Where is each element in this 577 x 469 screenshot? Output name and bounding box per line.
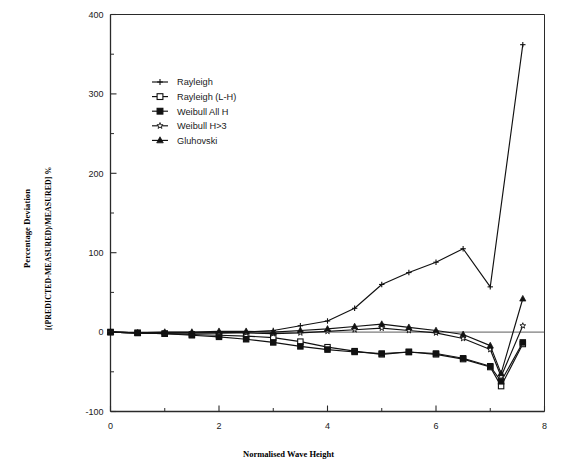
data-point-filled-square-icon bbox=[379, 351, 384, 356]
axis-tick-labels: 4003002001000-10002468 bbox=[85, 10, 547, 431]
y-axis-title-primary: Percentage Deviation bbox=[22, 189, 32, 268]
x-tick-label: 0 bbox=[108, 421, 113, 431]
y-tick-label: -100 bbox=[85, 407, 103, 417]
legend-item-weibull-h-3: Weibull H>3 bbox=[152, 121, 227, 131]
data-point-open-star-icon bbox=[520, 323, 526, 328]
legend-marker-filled-triangle-icon bbox=[157, 137, 164, 143]
data-point-filled-square-icon bbox=[352, 349, 357, 354]
y-tick-label: 400 bbox=[88, 10, 103, 20]
legend-label: Weibull All H bbox=[177, 107, 228, 117]
y-tick-label: 200 bbox=[88, 169, 103, 179]
data-point-filled-square-icon bbox=[433, 351, 438, 356]
data-point-filled-triangle-icon bbox=[520, 295, 526, 301]
data-point-filled-square-icon bbox=[406, 349, 411, 354]
x-tick-label: 6 bbox=[433, 421, 438, 431]
legend-item-rayleigh: Rayleigh bbox=[152, 77, 213, 87]
x-axis-title: Normalised Wave Height bbox=[0, 449, 577, 459]
legend-item-gluhovski: Gluhovski bbox=[152, 136, 217, 146]
y-tick-label: 300 bbox=[88, 89, 103, 99]
legend-item-weibull-all-h: Weibull All H bbox=[152, 107, 228, 117]
legend: RayleighRayleigh (L-H)Weibull All HWeibu… bbox=[152, 77, 236, 145]
series-line bbox=[111, 45, 523, 333]
data-point-filled-square-icon bbox=[488, 364, 493, 369]
data-series-group bbox=[107, 42, 526, 389]
x-tick-label: 2 bbox=[216, 421, 221, 431]
series-gluhovski bbox=[107, 295, 526, 375]
data-point-filled-square-icon bbox=[298, 344, 303, 349]
x-tick-label: 8 bbox=[542, 421, 547, 431]
legend-marker-open-star-icon bbox=[157, 123, 163, 129]
plot-area: 4003002001000-10002468 RayleighRayleigh … bbox=[0, 0, 577, 469]
y-axis-title-secondary: [(PREDICTED-MEASURED)/MEASURED] % bbox=[44, 167, 53, 330]
legend-label: Gluhovski bbox=[177, 136, 217, 146]
data-point-filled-square-icon bbox=[520, 340, 525, 345]
series-line bbox=[111, 326, 523, 377]
chart-figure: Percentage Deviation [(PREDICTED-MEASURE… bbox=[0, 0, 577, 469]
data-point-filled-square-icon bbox=[271, 340, 276, 345]
legend-label: Rayleigh (L-H) bbox=[177, 92, 236, 102]
data-point-filled-square-icon bbox=[460, 356, 465, 361]
series-rayleigh bbox=[108, 42, 526, 336]
x-tick-label: 4 bbox=[325, 421, 330, 431]
data-point-filled-square-icon bbox=[325, 347, 330, 352]
data-point-filled-triangle-icon bbox=[379, 321, 385, 327]
legend-marker-filled-square-icon bbox=[157, 108, 163, 114]
y-tick-label: 0 bbox=[98, 327, 103, 337]
legend-label: Weibull H>3 bbox=[177, 121, 227, 131]
data-point-filled-square-icon bbox=[243, 337, 248, 342]
legend-marker-open-square-icon bbox=[157, 94, 163, 100]
legend-label: Rayleigh bbox=[177, 77, 213, 87]
legend-item-rayleigh-l-h: Rayleigh (L-H) bbox=[152, 92, 236, 102]
y-tick-label: 100 bbox=[88, 248, 103, 258]
